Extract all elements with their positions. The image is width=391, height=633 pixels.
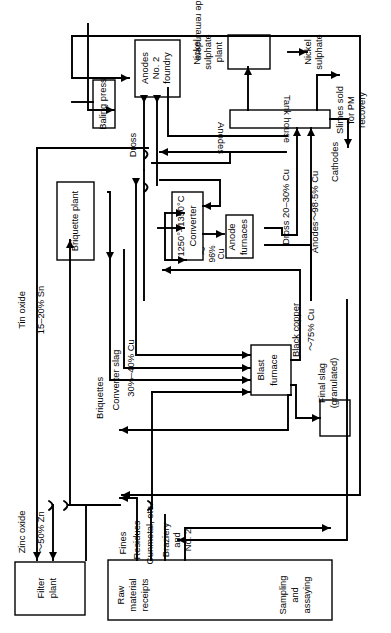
label-dross-20-30: Dross 20–30% Cu [280, 169, 291, 245]
label-anode-furnaces-line1: Anode [226, 223, 237, 250]
label-blast-furnace-line1: Blast [255, 359, 266, 380]
label-nickel-sulphate-plant-line1: Nickel [191, 39, 202, 65]
arrow-black-copper-to-converter [163, 266, 171, 274]
label-gunmetal: Gunmetal, etc. [144, 504, 155, 565]
label-blast-furnace-line2: furnace [268, 354, 279, 385]
label-braziery-line1: Braziery [160, 523, 171, 558]
label-braziery-line3: No. 2 [182, 529, 193, 551]
label-residues: Residues [131, 520, 142, 559]
arrow-blast-in-3 [242, 376, 250, 384]
label-briquette-plant: Briquette plant [69, 190, 80, 251]
line-anode-remainders-to-foundry [72, 36, 129, 78]
arrow-cathodes [344, 139, 352, 147]
arrow-blast-in-1 [242, 351, 250, 359]
label-converter-line1: 1250°–1350°C [175, 195, 186, 256]
label-filter-plant-line1: Filter [35, 578, 46, 599]
label-converter-slag-pct: 30%–40% Cu [125, 339, 136, 396]
box-tank-house[interactable] [230, 110, 330, 128]
arrow-to-foundry-1 [121, 74, 129, 82]
arrow-sampling-out [322, 524, 330, 532]
line-right-return-540 [178, 300, 347, 540]
line-into-briquette-plant [68, 240, 70, 505]
label-anodes-no2-foundry-line2: No. 2 [150, 57, 161, 79]
label-zinc-oxide-pct: ～50% Zn [35, 511, 46, 552]
arrow-blast-return [120, 426, 128, 434]
arrow-final-slag [312, 414, 320, 422]
label-sampling-line1: Sampling [277, 575, 288, 614]
label-final-slag-line2: (granulated) [328, 358, 339, 409]
connector-lines [37, 24, 360, 560]
process-flow-diagram: Anode remainders Anodes No. 2 foundry Ba… [0, 0, 391, 633]
arrow-to-anode-furnaces [216, 230, 224, 238]
arrow-blast-in-4 [242, 388, 250, 396]
arrow-slimes [331, 71, 339, 79]
arrow-to-nickel-plant [244, 67, 252, 75]
line-blast-bottom-return [120, 395, 291, 430]
label-sampling-line2: and [289, 587, 300, 603]
label-slimes-line3: recovery [356, 92, 367, 128]
label-anodes-985: Anodes～98·5% Cu [309, 171, 320, 254]
label-nickel-sulphate-plant-line3: plant [213, 41, 224, 62]
label-black-copper: Black copper [290, 303, 301, 357]
arrow-converter-recycle [203, 202, 211, 210]
label-anode-furnaces-line2: furnaces [238, 219, 249, 255]
label-raw-material-line1: Raw [115, 585, 126, 604]
arrow-collector-152 [160, 148, 168, 156]
line-slag2-to-blast [124, 250, 250, 368]
line-anodefurnace-to-anodes [265, 245, 311, 300]
arrow-blast-in-2 [242, 364, 250, 372]
text-labels: Anode remainders Anodes No. 2 foundry Ba… [16, 0, 367, 615]
arrow-dross2030-in [293, 128, 301, 136]
label-tank-house: Tank house [282, 95, 293, 143]
label-anodes: Anodes [216, 122, 227, 154]
label-fines: Fines [117, 531, 128, 554]
label-anodes-no2-foundry-line1: Anodes [139, 52, 150, 84]
arrow-zinc-to-filter [49, 552, 57, 560]
line-black-copper-to-converter [163, 270, 300, 360]
label-raw-material-line3: receipts [139, 578, 150, 611]
label-nickel-sulphate-plant-line2: sulphate [202, 34, 213, 69]
label-zinc-oxide: Zinc oxide [16, 511, 27, 554]
label-converter-line2: Converter [187, 205, 198, 246]
label-cathodes: Cathodes [329, 142, 340, 182]
label-tin-oxide: Tin oxide [16, 291, 27, 329]
label-converter-slag: Converter slag [110, 350, 121, 411]
label-tin-oxide-pct: 15–20% Sn [35, 286, 46, 334]
label-raw-material-line2: material [127, 578, 138, 611]
hop-icon-3 [49, 501, 53, 510]
label-dross: Dross [127, 132, 138, 157]
label-anodes-no2-foundry-line3: foundry [161, 52, 172, 84]
arrow-anodes985-in [307, 128, 315, 136]
label-slimes-line1: Slimes sold [334, 86, 345, 134]
label-nickel-sulphate-line1: Nickel [302, 39, 313, 65]
arrow-converter-slag-down [132, 178, 140, 186]
arrow-foundry-down-1 [140, 95, 148, 103]
box-nickel-sulphate-plant[interactable] [228, 35, 270, 69]
arrow-briquettes-down [106, 252, 114, 260]
arrow-foundry-down-2 [153, 95, 161, 103]
label-nickel-sulphate-line2: sulphate [313, 34, 324, 69]
label-sampling-line3: assaying [301, 576, 312, 613]
hop-icon-4 [64, 501, 68, 510]
label-baling-press: Baling press [97, 78, 108, 130]
line-sampling-out-a [185, 528, 330, 560]
label-briquettes: Briquettes [94, 377, 105, 420]
label-black-copper-pct: ～75% Cu [305, 309, 316, 351]
line-converter-recycle-top [203, 180, 220, 206]
label-final-slag-line1: Final slag [316, 363, 327, 403]
label-96cu-cu: Cu [216, 248, 226, 259]
label-filter-plant-line2: plant [47, 577, 58, 598]
label-slimes-line2: for PM [345, 96, 356, 124]
label-braziery-line2: and [171, 532, 182, 548]
arrowheads [33, 48, 352, 560]
